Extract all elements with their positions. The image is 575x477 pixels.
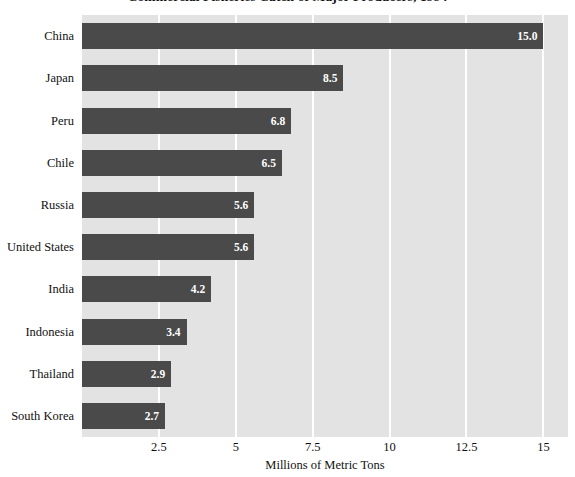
bar-value-label: 2.7 — [145, 403, 159, 429]
bar-value-label: 8.5 — [323, 65, 337, 91]
bar-row[interactable]: 3.4 — [82, 319, 187, 345]
bar-value-label: 4.2 — [191, 276, 205, 302]
bar-row[interactable]: 5.6 — [82, 234, 254, 260]
bar-row[interactable]: 5.6 — [82, 192, 254, 218]
y-axis-label-japan: Japan — [0, 65, 78, 91]
bar-row[interactable]: 15.0 — [82, 23, 543, 49]
bar-value-label: 6.8 — [271, 108, 285, 134]
plot-area: 15.08.56.86.55.65.64.23.42.92.7 — [82, 15, 568, 437]
bar[interactable] — [82, 234, 254, 260]
bar-value-label: 5.6 — [234, 192, 248, 218]
x-axis-tick-labels: 2.557.51012.515 — [82, 440, 568, 458]
x-axis-title: Millions of Metric Tons — [82, 458, 568, 473]
bar-row[interactable]: 2.9 — [82, 361, 171, 387]
y-axis-label-china: China — [0, 23, 78, 49]
y-axis-category-labels: ChinaJapanPeruChileRussiaUnited StatesIn… — [0, 15, 78, 437]
bar-value-label: 2.9 — [151, 361, 165, 387]
gridline-15 — [542, 15, 544, 437]
x-tick-10: 10 — [383, 440, 396, 455]
gridline-12.5 — [465, 15, 467, 437]
y-axis-label-south-korea: South Korea — [0, 403, 78, 429]
x-tick-15: 15 — [537, 440, 550, 455]
x-tick-5: 5 — [233, 440, 239, 455]
y-axis-label-indonesia: Indonesia — [0, 319, 78, 345]
bar-chart: Commercial Fisheries Catch of Major Prod… — [0, 0, 575, 477]
bar-row[interactable]: 8.5 — [82, 65, 343, 91]
bar[interactable] — [82, 65, 343, 91]
y-axis-label-russia: Russia — [0, 192, 78, 218]
bar-row[interactable]: 4.2 — [82, 276, 211, 302]
x-tick-2.5: 2.5 — [151, 440, 167, 455]
bar-row[interactable]: 6.5 — [82, 150, 282, 176]
bar[interactable] — [82, 150, 282, 176]
y-axis-label-india: India — [0, 276, 78, 302]
bar-row[interactable]: 6.8 — [82, 108, 291, 134]
chart-title: Commercial Fisheries Catch of Major Prod… — [0, 0, 575, 5]
bar-row[interactable]: 2.7 — [82, 403, 165, 429]
bar-value-label: 15.0 — [517, 23, 537, 49]
y-axis-label-thailand: Thailand — [0, 361, 78, 387]
y-axis-label-united-states: United States — [0, 234, 78, 260]
y-axis-label-peru: Peru — [0, 108, 78, 134]
x-tick-7.5: 7.5 — [305, 440, 321, 455]
bar-value-label: 6.5 — [262, 150, 276, 176]
bar[interactable] — [82, 108, 291, 134]
x-tick-12.5: 12.5 — [456, 440, 478, 455]
gridline-10 — [389, 15, 391, 437]
y-axis-label-chile: Chile — [0, 150, 78, 176]
bar-value-label: 3.4 — [166, 319, 180, 345]
bar[interactable] — [82, 192, 254, 218]
bar[interactable] — [82, 23, 543, 49]
bar-value-label: 5.6 — [234, 234, 248, 260]
